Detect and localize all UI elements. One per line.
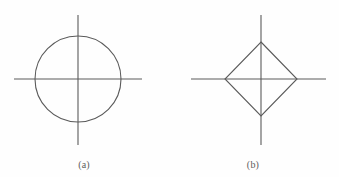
figure-a-drawing [0, 0, 170, 155]
figure-b-drawing [169, 0, 339, 155]
figure-panel-a: (a) [0, 0, 170, 177]
figure-panel-b: (b) [169, 0, 339, 177]
caption-a: (a) [0, 159, 169, 170]
figure-container: (a) (b) [0, 0, 339, 177]
caption-b: (b) [168, 159, 338, 170]
